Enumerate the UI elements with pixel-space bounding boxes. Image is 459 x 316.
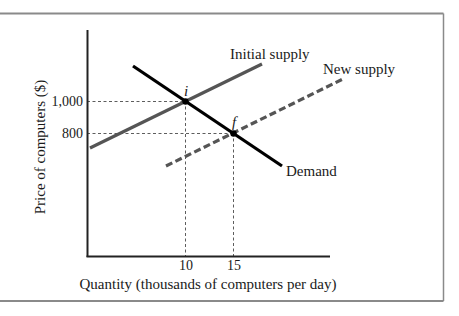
equilibrium-point-f bbox=[230, 130, 236, 136]
x-tick-15: 15 bbox=[227, 258, 241, 273]
x-tick-10: 10 bbox=[179, 258, 193, 273]
equilibrium-point-i bbox=[182, 98, 188, 104]
reference-lines bbox=[87, 101, 234, 256]
y-axis-label: Price of computers ($) bbox=[32, 80, 49, 215]
figure-frame bbox=[0, 14, 444, 302]
new-supply-label: New supply bbox=[323, 61, 396, 77]
new-supply-curve bbox=[166, 78, 345, 166]
supply-demand-chart: i f Initial supply New supply Demand 1,0… bbox=[0, 0, 459, 316]
demand-label: Demand bbox=[286, 163, 337, 179]
point-f-label: f bbox=[232, 114, 238, 130]
initial-supply-label: Initial supply bbox=[230, 46, 310, 62]
x-axis-label: Quantity (thousands of computers per day… bbox=[79, 276, 336, 293]
y-tick-1000: 1,000 bbox=[52, 94, 84, 109]
y-tick-800: 800 bbox=[62, 126, 83, 141]
point-i-label: i bbox=[184, 83, 188, 99]
